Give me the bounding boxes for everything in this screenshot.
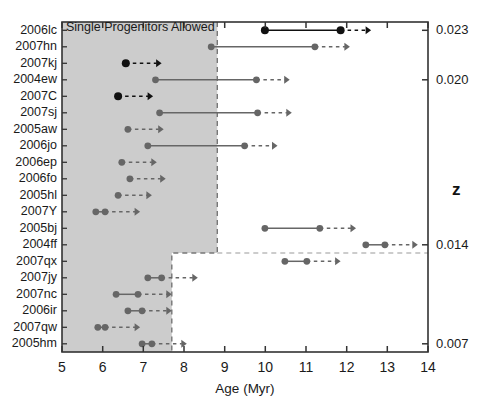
data-row [362,241,417,249]
age-min-marker [94,324,101,331]
upper-limit-arrow-icon [344,43,350,51]
supernova-name-label: 2005aw [0,123,57,136]
age-min-marker [115,192,122,199]
age-max-marker [139,307,146,314]
x-axis-tick-label: 7 [123,360,163,374]
right-axis-title: z [452,180,461,200]
age-max-marker [312,43,319,50]
x-axis-tick-label: 13 [367,360,407,374]
x-axis-tick-label: 12 [327,360,367,374]
data-row [282,257,341,265]
redshift-tick-label: 0.014 [436,238,469,251]
supernova-name-label: 2007qw [0,321,57,334]
age-min-marker [125,126,132,133]
supernova-name-label: 2007kj [0,57,57,70]
upper-limit-arrow-icon [351,224,357,232]
x-axis-title: Age (Myr) [62,381,428,396]
age-max-marker [253,76,260,83]
redshift-tick-label: 0.020 [436,73,469,86]
supernova-name-label: 2007C [0,90,57,103]
shaded-single-progenitor-region [62,22,217,352]
age-max-marker [102,324,109,331]
upper-limit-arrow-icon [192,274,198,282]
age-min-marker [125,307,132,314]
age-min-marker [144,274,151,281]
shaded-region-title: Single Progenitors Allowed [66,20,215,34]
supernova-name-label: 2005bj [0,222,57,235]
x-axis-tick-label: 6 [83,360,123,374]
age-max-marker [102,208,109,215]
age-min-marker [152,76,159,83]
upper-limit-arrow-icon [335,257,341,265]
supernova-name-label: 2007jy [0,271,57,284]
age-max-marker [241,142,248,149]
age-min-marker [362,241,369,248]
data-row [208,43,350,51]
supernova-name-label: 2007Y [0,205,57,218]
age-min-marker [139,340,146,347]
x-axis-tick-label: 14 [408,360,448,374]
supernova-name-label: 2004ew [0,73,57,86]
age-min-marker [262,225,269,232]
data-row [261,26,371,34]
upper-limit-arrow-icon [272,142,278,150]
data-row [262,224,357,232]
age-min-marker [122,59,130,67]
supernova-name-label: 2007nc [0,288,57,301]
supernova-name-label: 2006jo [0,139,57,152]
age-max-marker [149,340,156,347]
age-max-marker [158,274,165,281]
supernova-name-label: 2007sj [0,106,57,119]
upper-limit-arrow-icon [366,26,372,34]
supernova-name-label: 2006ep [0,156,57,169]
age-min-marker [92,208,99,215]
supernova-name-label: 2004ff [0,238,57,251]
supernova-name-label: 2007qx [0,255,57,268]
upper-limit-arrow-icon [412,241,418,249]
age-max-marker [254,109,261,116]
age-max-marker [382,241,389,248]
age-min-marker [282,258,289,265]
age-min-marker [126,175,133,182]
x-axis-tick-label: 10 [245,360,285,374]
redshift-tick-label: 0.023 [436,23,469,36]
supernova-name-label: 2005hm [0,337,57,350]
x-axis-tick-label: 11 [286,360,326,374]
x-axis-tick-label: 9 [205,360,245,374]
chart-canvas [0,0,485,406]
redshift-tick-label: 0.007 [436,337,469,350]
upper-limit-arrow-icon [284,76,290,84]
supernova-name-label: 2007hn [0,40,57,53]
age-min-marker [156,109,163,116]
age-min-marker [118,159,125,166]
x-axis-tick-label: 8 [164,360,204,374]
age-max-marker [135,291,142,298]
supernova-name-label: 2006fo [0,172,57,185]
age-min-marker [144,142,151,149]
supernova-name-label: 2006ir [0,304,57,317]
supernova-name-label: 2006lc [0,24,57,37]
upper-limit-arrow-icon [286,109,292,117]
x-axis-tick-label: 5 [42,360,82,374]
age-max-marker [316,225,323,232]
age-min-marker [113,291,120,298]
age-max-marker [337,26,345,34]
age-vs-redshift-scatter-chart: 5678910111213142006lc2007hn2007kj2004ew2… [0,0,485,406]
age-min-marker [208,43,215,50]
supernova-name-label: 2005hl [0,189,57,202]
age-min-marker [114,92,122,100]
age-max-marker [303,258,310,265]
